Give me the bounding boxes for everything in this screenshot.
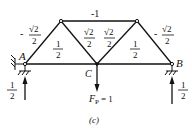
svg-text:-: -: [20, 28, 23, 39]
truss-members: [25, 21, 172, 64]
truss-diagram: A B C -1 - √2 2 1 2 √2 2 √2 2 1 2 - √2 2: [0, 0, 192, 136]
svg-text:2: 2: [165, 36, 170, 46]
figure-caption: (c): [89, 115, 99, 125]
svg-text:2: 2: [133, 50, 138, 60]
node-label-a: A: [18, 50, 26, 62]
svg-text:2: 2: [10, 91, 15, 101]
member-bottom-right-label: 1 2: [130, 39, 140, 60]
svg-text:√2: √2: [29, 24, 38, 34]
member-top-chord-label: -1: [91, 8, 99, 19]
node-top-left: [59, 19, 62, 22]
truss-nodes: [23, 19, 173, 65]
member-right-diagonal-label: - √2 2: [154, 24, 174, 46]
svg-text:2: 2: [32, 36, 37, 46]
svg-text:P: P: [95, 98, 99, 106]
node-label-c: C: [85, 68, 92, 79]
svg-text:= 1: = 1: [101, 94, 113, 104]
svg-text:√2: √2: [84, 27, 93, 37]
member-inner-left-diagonal-label: √2 2: [84, 27, 95, 49]
member-left-diagonal-label: - √2 2: [20, 24, 41, 46]
svg-text:2: 2: [87, 39, 92, 49]
inner-right-diagonal: [97, 21, 137, 64]
node-c: [96, 63, 99, 66]
svg-text:2: 2: [107, 39, 112, 49]
svg-text:2: 2: [56, 50, 61, 60]
node-label-b: B: [176, 57, 183, 69]
svg-text:1: 1: [133, 39, 138, 49]
svg-text:2: 2: [181, 91, 186, 101]
load-arrow: [95, 65, 100, 92]
svg-text:1: 1: [56, 39, 61, 49]
svg-text:1: 1: [181, 80, 186, 90]
reaction-a-label: 1 2: [7, 80, 17, 101]
svg-text:-: -: [154, 28, 157, 39]
reaction-b-label: 1 2: [178, 80, 188, 101]
svg-text:√2: √2: [162, 24, 171, 34]
svg-text:1: 1: [10, 80, 15, 90]
svg-text:√2: √2: [104, 27, 113, 37]
node-top-right: [135, 19, 138, 22]
member-bottom-left-label: 1 2: [53, 39, 63, 60]
load-label: F P = 1: [88, 93, 113, 106]
